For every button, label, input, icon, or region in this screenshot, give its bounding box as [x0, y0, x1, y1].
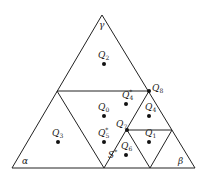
point-label: Q6	[121, 141, 132, 152]
point-q6: Q6	[121, 141, 132, 157]
vertex-label-beta: β	[177, 156, 183, 166]
point-q2: Q2	[98, 50, 109, 66]
point-label: Q4	[145, 102, 156, 113]
point-dot	[147, 89, 151, 93]
point-label: Q5*	[98, 126, 109, 139]
point-q4: Q4	[145, 102, 156, 118]
point-dot	[56, 140, 60, 144]
vertex-label-alpha: α	[22, 156, 28, 166]
point-label: Q7	[116, 119, 127, 130]
point-label: Q3	[52, 128, 63, 139]
point-q7: Q7	[116, 119, 129, 132]
point-q3: Q3	[52, 128, 63, 144]
point-dot	[124, 153, 128, 157]
point-dot	[147, 114, 151, 118]
point-label: Q0	[98, 102, 109, 113]
triangle-edges	[12, 15, 195, 168]
point-q5-star: Q5*	[98, 126, 109, 144]
svg-text:S*: S*	[108, 148, 117, 160]
point-dot	[102, 114, 106, 118]
point-dot	[147, 140, 151, 144]
point-dot	[124, 102, 128, 106]
point-label: Q4*	[122, 88, 133, 101]
point-dot	[102, 140, 106, 144]
point-q0: Q0	[98, 102, 109, 118]
point-q4-star: Q4*	[122, 88, 133, 106]
point-dot	[102, 62, 106, 66]
point-q8: Q8	[147, 83, 163, 94]
left-inner-line	[57, 91, 104, 168]
vertex-label-gamma: γ	[99, 20, 105, 30]
points-layer: Q2Q8Q4*Q0Q4Q7Q3Q5*Q1Q6	[52, 50, 163, 157]
subdivided-triangle-diagram: γ α β Q2Q8Q4*Q0Q4Q7Q3Q5*Q1Q6 S*	[0, 0, 206, 178]
annotation-sup: *	[114, 148, 117, 155]
annotation-s-star: S*	[108, 148, 117, 160]
point-label: Q8	[152, 83, 163, 94]
point-label: Q2	[98, 50, 109, 61]
